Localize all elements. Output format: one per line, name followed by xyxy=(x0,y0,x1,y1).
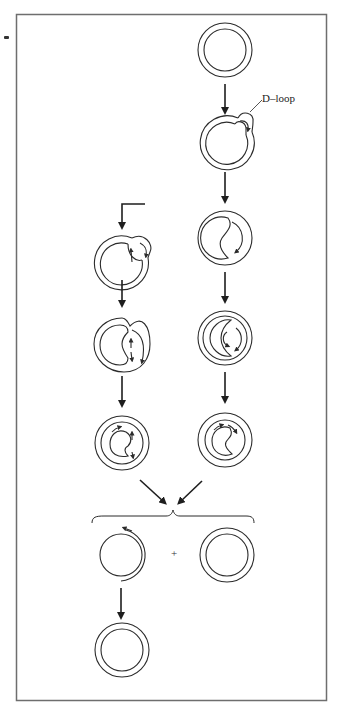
figure-frame xyxy=(17,15,327,701)
plus-sign: + xyxy=(171,547,177,559)
arrow-converge-right-icon xyxy=(180,481,202,502)
circle-repaired-daughter xyxy=(95,623,149,677)
circle-nearly-complete-right xyxy=(198,413,252,467)
circle-complete-daughter xyxy=(200,528,254,582)
diagram-canvas xyxy=(0,0,342,707)
branch-arrow-icon xyxy=(122,204,145,226)
arrow-converge-left-icon xyxy=(140,480,164,502)
circle-both-strands-synthesis xyxy=(94,318,150,372)
circle-duplex-initial xyxy=(198,23,252,77)
margin-bullet xyxy=(4,36,9,39)
circle-d-loop xyxy=(200,100,262,170)
d-loop-label: D–loop xyxy=(262,92,295,104)
circle-displacement-synthesis xyxy=(198,211,252,265)
brace-bracket xyxy=(92,510,254,523)
d-loop-replication-diagram: D–loop + xyxy=(0,0,342,707)
circle-continued-synthesis xyxy=(198,311,252,365)
circle-gapped-daughter xyxy=(100,528,145,581)
circle-nearly-complete-left xyxy=(95,416,149,470)
